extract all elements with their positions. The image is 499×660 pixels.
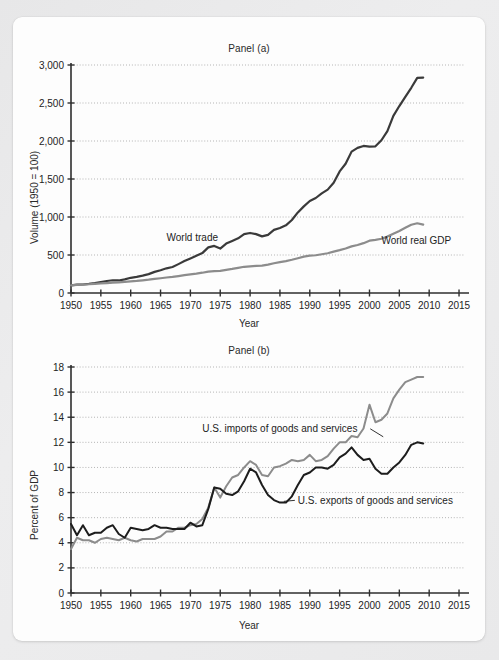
x-tick-label: 2010 <box>418 300 441 311</box>
y-tick-label: 0 <box>58 588 64 599</box>
x-tick-label: 1955 <box>90 600 113 611</box>
y-tick-label: 18 <box>53 362 65 373</box>
x-tick-label: 1965 <box>149 300 172 311</box>
x-tick-label: 2000 <box>358 600 381 611</box>
x-tick-label: 1980 <box>239 300 262 311</box>
x-tick-label: 1970 <box>179 300 202 311</box>
x-tick-label: 1990 <box>299 600 322 611</box>
panel-a-plot: 05001,0001,5002,0002,5003,00019501955196… <box>13 29 485 329</box>
series-annotation: U.S. exports of goods and services <box>298 495 453 506</box>
y-tick-label: 0 <box>58 288 64 299</box>
y-tick-label: 2,000 <box>39 136 64 147</box>
figure-page: Panel (a) Volume (1950 = 100) Year 05001… <box>0 0 499 660</box>
x-tick-label: 2000 <box>358 300 381 311</box>
figure-card: Panel (a) Volume (1950 = 100) Year 05001… <box>13 17 485 641</box>
y-tick-label: 500 <box>47 250 64 261</box>
x-tick-label: 1950 <box>60 300 83 311</box>
y-tick-label: 16 <box>53 387 65 398</box>
y-tick-label: 14 <box>53 412 65 423</box>
x-tick-label: 1975 <box>209 300 232 311</box>
x-tick-label: 1995 <box>329 600 352 611</box>
x-tick-label: 2005 <box>388 600 411 611</box>
y-tick-label: 1,500 <box>39 174 64 185</box>
x-tick-label: 1975 <box>209 600 232 611</box>
x-tick-label: 2005 <box>388 300 411 311</box>
series-annotation: World real GDP <box>381 235 451 246</box>
series-line <box>71 78 423 286</box>
y-tick-label: 4 <box>58 537 64 548</box>
x-tick-label: 1990 <box>299 300 322 311</box>
series-line <box>71 377 423 549</box>
x-tick-label: 1965 <box>149 600 172 611</box>
x-tick-label: 1985 <box>269 300 292 311</box>
x-tick-label: 1955 <box>90 300 113 311</box>
y-tick-label: 6 <box>58 512 64 523</box>
y-tick-label: 1,000 <box>39 212 64 223</box>
panel-b-plot: 0246810121416181950195519601965197019751… <box>13 335 485 635</box>
panel-a: Panel (a) Volume (1950 = 100) Year 05001… <box>13 29 485 329</box>
x-tick-label: 1960 <box>120 600 143 611</box>
x-tick-label: 1985 <box>269 600 292 611</box>
x-tick-label: 1995 <box>329 300 352 311</box>
x-tick-label: 1960 <box>120 300 143 311</box>
series-line <box>71 442 423 537</box>
y-tick-label: 3,000 <box>39 60 64 71</box>
series-annotation: U.S. imports of goods and services <box>202 423 357 434</box>
x-tick-label: 1970 <box>179 600 202 611</box>
x-tick-label: 2015 <box>448 300 471 311</box>
x-tick-label: 2010 <box>418 600 441 611</box>
y-tick-label: 8 <box>58 487 64 498</box>
y-tick-label: 2,500 <box>39 98 64 109</box>
x-tick-label: 1980 <box>239 600 262 611</box>
x-tick-label: 2015 <box>448 600 471 611</box>
y-tick-label: 2 <box>58 562 64 573</box>
x-tick-label: 1950 <box>60 600 83 611</box>
y-tick-label: 10 <box>53 462 65 473</box>
panel-b: Panel (b) Percent of GDP Year 0246810121… <box>13 335 485 635</box>
y-tick-label: 12 <box>53 437 65 448</box>
series-annotation: World trade <box>167 232 219 243</box>
